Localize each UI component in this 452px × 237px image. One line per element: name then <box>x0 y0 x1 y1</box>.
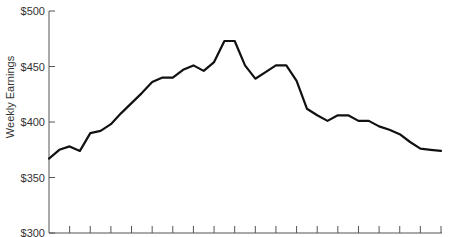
y-tick-label: $400 <box>21 116 45 128</box>
y-tick-label: $350 <box>21 172 45 184</box>
earnings-series-line <box>49 41 441 159</box>
y-axis: $300$350$400$450$500 <box>21 5 55 237</box>
y-tick-label: $500 <box>21 5 45 17</box>
y-axis-title: Weekly Earnings <box>4 55 16 138</box>
x-axis <box>49 226 442 233</box>
y-tick-label: $300 <box>21 227 45 237</box>
y-tick-label: $450 <box>21 61 45 73</box>
weekly-earnings-line-chart: $300$350$400$450$500 Weekly Earnings <box>0 0 452 237</box>
